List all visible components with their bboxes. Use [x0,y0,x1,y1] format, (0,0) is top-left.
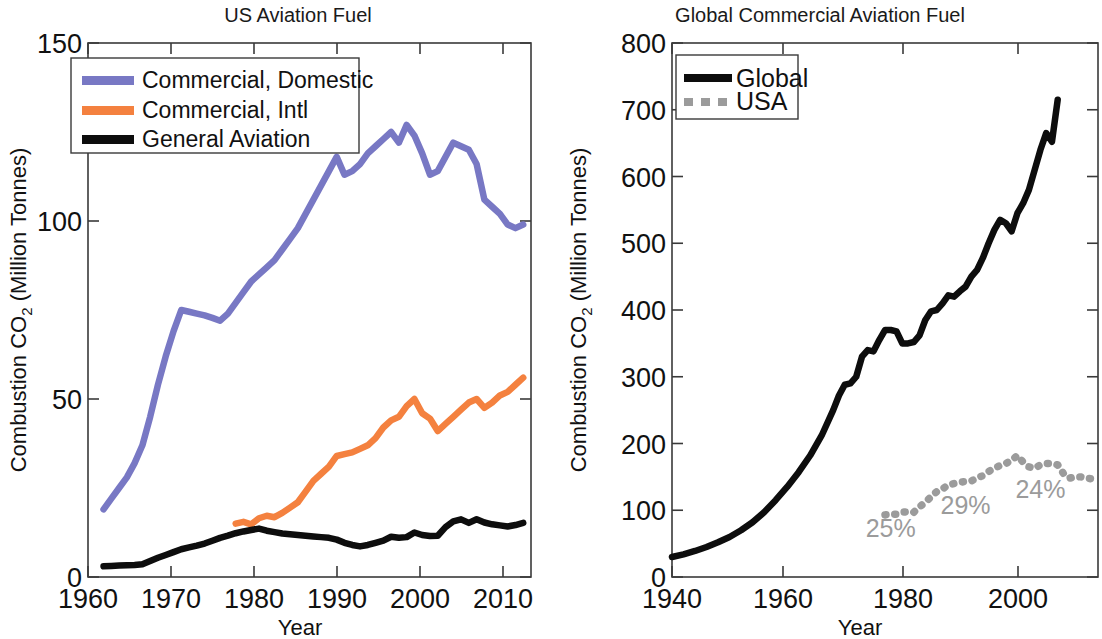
annotation-29pct: 29% [941,491,991,519]
svg-text:Combustion CO2 (Million Tonnes: Combustion CO2 (Million Tonnes) [566,148,595,473]
y-tick-label-left-100: 100 [37,207,82,237]
svg-text:Combustion CO2 (Million Tonnes: Combustion CO2 (Million Tonnes) [6,148,35,473]
y-axis-label-left-sub: 2 [18,307,35,315]
legend-label-commercial-intl: Commercial, Intl [142,97,308,123]
y-tick-label-right-100: 100 [621,496,666,526]
annotations-right: 25%29%24% [866,475,1066,542]
y-tick-label-right-700: 700 [621,96,666,126]
series-group-left [104,125,524,566]
x-tick-label-right-1980: 1980 [873,584,933,614]
y-axis-label-left-tail: (Million Tonnes) [6,148,31,308]
annotation-25pct: 25% [866,514,916,542]
legend-label-usa: USA [736,87,788,115]
series-line-commercial-intl [236,378,524,525]
legend-swatch-commercial-domestic [82,76,134,85]
chart-panel-global-commercial-aviation-fuel: Global Commercial Aviation Fuel Combusti… [560,0,1102,639]
y-axis-label-right-tail: (Million Tonnes) [566,148,591,308]
chart-title-left: US Aviation Fuel [224,4,372,26]
x-tick-label-left-2000: 2000 [390,584,450,614]
x-tick-label-left-1980: 1980 [224,584,284,614]
x-axis-label-right: Year [838,615,882,639]
series-line-general-aviation [104,519,524,566]
annotation-24pct: 24% [1015,475,1065,503]
y-tick-label-left-150: 150 [37,29,82,59]
x-tick-label-right-1960: 1960 [753,584,813,614]
y-tick-label-right-300: 300 [621,363,666,393]
global-commercial-aviation-fuel-svg: Global Commercial Aviation Fuel Combusti… [560,0,1102,639]
series-line-global [672,100,1058,557]
legend-swatch-commercial-intl [82,106,134,115]
series-line-usa [885,456,1098,515]
legend-swatch-general-aviation [82,135,134,144]
x-tick-label-right-2000: 2000 [988,584,1048,614]
y-axis-label-left: Combustion CO2 (Million Tonnes) [6,148,35,473]
legend-label-general-aviation: General Aviation [142,126,310,152]
us-aviation-fuel-svg: US Aviation Fuel Combustion CO2 (Million… [0,0,560,639]
x-tick-label-right-1940: 1940 [642,584,702,614]
y-tick-label-left-50: 50 [52,385,82,415]
series-line-commercial-domestic [104,125,524,509]
figure-two-panel-chart: US Aviation Fuel Combustion CO2 (Million… [0,0,1102,639]
legend-swatch-global [684,74,732,82]
legend-right: Global USA [676,55,808,119]
x-tick-label-left-1990: 1990 [307,584,367,614]
legend-swatch-usa [684,98,727,106]
y-axis-label-right-sub: 2 [578,307,595,315]
y-tick-label-right-500: 500 [621,229,666,259]
x-tick-label-left-1970: 1970 [141,584,201,614]
chart-title-right: Global Commercial Aviation Fuel [675,4,965,26]
y-tick-label-right-800: 800 [621,29,666,59]
y-axis-label-right: Combustion CO2 (Million Tonnes) [566,148,595,473]
legend-label-commercial-domestic: Commercial, Domestic [142,67,373,93]
x-tick-label-left-1960: 1960 [58,584,118,614]
y-tick-label-right-400: 400 [621,296,666,326]
y-axis-label-left-main: Combustion CO [6,316,31,473]
y-tick-label-right-200: 200 [621,430,666,460]
x-tick-label-left-2010: 2010 [473,584,533,614]
legend-left: Commercial, Domestic Commercial, Intl Ge… [71,58,373,153]
chart-panel-us-aviation-fuel: US Aviation Fuel Combustion CO2 (Million… [0,0,560,639]
y-tick-labels-right: 0100200300400500600700800 [621,29,666,593]
y-tick-label-right-600: 600 [621,163,666,193]
x-axis-label-left: Year [278,615,322,639]
y-axis-label-right-main: Combustion CO [566,316,591,473]
